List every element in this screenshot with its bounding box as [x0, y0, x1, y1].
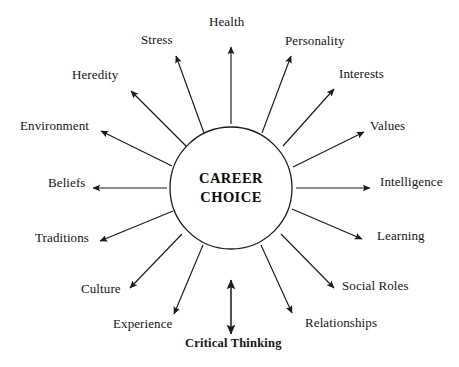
spoke-label-health: Health [209, 15, 244, 28]
center-label-line2: CHOICE [161, 188, 301, 207]
spoke-label-relationships: Relationships [305, 316, 377, 329]
spoke-arrow-social-roles [281, 234, 334, 288]
spoke-label-intelligence: Intelligence [380, 175, 443, 188]
center-label: CAREER CHOICE [161, 169, 301, 206]
spoke-label-learning: Learning [377, 229, 425, 242]
spoke-label-interests: Interests [339, 67, 384, 80]
spoke-label-experience: Experience [113, 317, 172, 330]
spoke-arrow-stress [176, 56, 204, 133]
spoke-arrow-values [293, 132, 364, 167]
spoke-label-values: Values [370, 119, 405, 132]
spoke-arrow-traditions [100, 211, 173, 241]
center-label-line1: CAREER [161, 169, 301, 188]
spoke-arrow-learning [292, 209, 362, 239]
spoke-label-critical-thinking: Critical Thinking [185, 337, 282, 350]
spoke-label-culture: Culture [81, 282, 121, 295]
spoke-label-social-roles: Social Roles [342, 279, 409, 292]
spoke-label-personality: Personality [285, 34, 345, 47]
spoke-label-heredity: Heredity [72, 68, 118, 81]
spoke-label-stress: Stress [141, 33, 173, 46]
spoke-arrow-environment [101, 131, 172, 166]
spoke-label-traditions: Traditions [35, 231, 89, 244]
spoke-arrow-culture [130, 234, 182, 288]
spoke-arrow-personality [262, 56, 291, 133]
spoke-label-environment: Environment [20, 119, 89, 132]
spoke-arrow-interests [283, 89, 334, 146]
spoke-label-beliefs: Beliefs [48, 176, 86, 189]
spoke-arrow-relationships [261, 245, 292, 313]
spoke-arrow-heredity [131, 91, 187, 147]
spoke-arrow-experience [174, 245, 203, 314]
career-choice-diagram: CAREER CHOICE HealthPersonalityInterests… [0, 0, 459, 367]
